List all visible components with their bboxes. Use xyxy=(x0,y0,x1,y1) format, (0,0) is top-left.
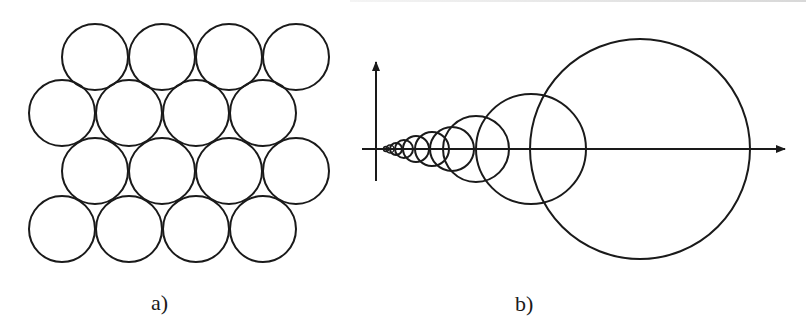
packed-circle xyxy=(263,24,329,90)
packed-circle xyxy=(163,80,229,146)
packed-circle xyxy=(263,138,329,204)
packed-circle xyxy=(96,80,162,146)
packed-circle xyxy=(29,196,95,262)
packed-circle xyxy=(230,80,296,146)
packed-circle xyxy=(96,196,162,262)
packed-circle xyxy=(62,24,128,90)
packed-circle xyxy=(163,196,229,262)
packed-circle xyxy=(62,138,128,204)
panel-b-circle-sequence xyxy=(362,39,785,259)
packed-circle xyxy=(230,196,296,262)
packed-circle xyxy=(29,80,95,146)
panel-a-label: a) xyxy=(151,290,168,316)
panel-a-circle-packing xyxy=(29,24,329,262)
packed-circle xyxy=(129,138,195,204)
packed-circle xyxy=(196,24,262,90)
packed-circle xyxy=(196,138,262,204)
panel-b-label: b) xyxy=(515,291,533,317)
figure-canvas xyxy=(0,0,806,336)
packed-circle xyxy=(129,24,195,90)
